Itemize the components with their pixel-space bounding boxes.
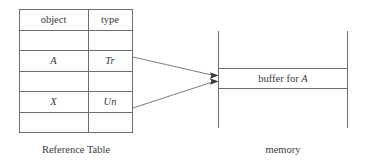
table-header-object: object <box>19 15 88 26</box>
diagram-canvas: object type A Tr X Un buffer for A Refer… <box>0 0 370 167</box>
reference-table-grid <box>20 10 133 133</box>
memory-buffer-label: buffer for A <box>219 74 347 85</box>
arrowhead-lower <box>210 78 219 85</box>
table-cell-object-A: A <box>19 56 88 67</box>
arrowhead-group <box>210 72 219 85</box>
arrow-group <box>133 57 214 108</box>
arrow-line-un-to-buffer <box>133 82 214 109</box>
table-cell-type-Tr: Tr <box>88 56 132 67</box>
memory-caption: memory <box>218 145 348 156</box>
memory-buffer-label-var: A <box>301 73 307 84</box>
arrowhead-upper <box>210 72 219 79</box>
arrow-line-tr-to-buffer <box>133 57 214 76</box>
table-cell-type-Un: Un <box>88 97 132 108</box>
table-cell-object-X: X <box>19 97 88 108</box>
memory-buffer-label-prefix: buffer for <box>258 73 301 84</box>
table-header-type: type <box>88 15 132 26</box>
reference-table-caption: Reference Table <box>10 145 142 156</box>
